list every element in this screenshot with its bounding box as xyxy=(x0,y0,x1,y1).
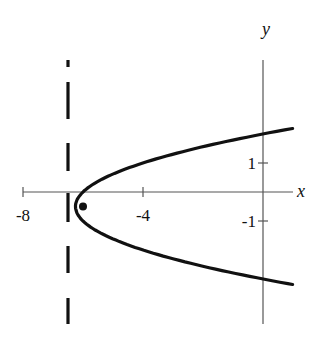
y-tick-label-neg1: -1 xyxy=(242,212,256,231)
x-axis-label: x xyxy=(296,181,305,201)
parabola-curve xyxy=(76,129,293,285)
parabola-plot: -8 -4 1 -1 x y xyxy=(0,0,328,346)
x-tick-label-neg8: -8 xyxy=(16,206,30,225)
y-tick-label-1: 1 xyxy=(248,154,257,173)
y-axis-label: y xyxy=(260,19,270,39)
x-tick-label-neg4: -4 xyxy=(136,206,151,225)
focus-point xyxy=(79,203,87,211)
